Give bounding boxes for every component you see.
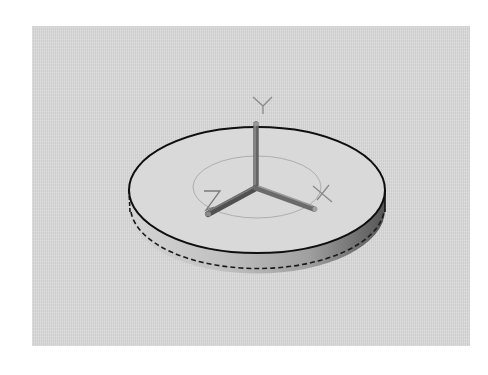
- y-axis: [253, 122, 259, 188]
- 3d-scene[interactable]: Y Z X: [0, 0, 488, 375]
- screenshot-stage: Y Z X: [0, 0, 488, 375]
- y-axis-label: Y: [253, 96, 273, 114]
